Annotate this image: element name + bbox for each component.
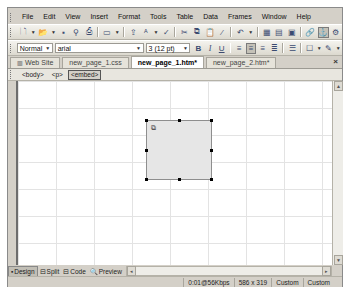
paste-icon[interactable]: 📋 xyxy=(204,27,215,38)
menu-frames[interactable]: Frames xyxy=(223,11,257,23)
hyperlink-icon[interactable]: 🔗 xyxy=(305,27,316,38)
separator xyxy=(230,27,232,37)
bold-button[interactable]: B xyxy=(193,43,203,54)
scroll-up-icon[interactable]: ▲ xyxy=(334,81,343,91)
menu-insert[interactable]: Insert xyxy=(85,11,113,23)
design-icon: ▪ xyxy=(11,267,13,276)
tag-p[interactable]: <p> xyxy=(49,70,66,80)
scroll-left-icon[interactable]: ◂ xyxy=(127,266,136,276)
copy-icon[interactable]: ⧉ xyxy=(192,27,203,38)
resize-handle[interactable] xyxy=(178,119,181,122)
toolbar-grip[interactable] xyxy=(10,44,14,53)
schema-mode[interactable]: Custom xyxy=(271,278,302,287)
new-page-icon[interactable]: 🗋 xyxy=(18,27,29,38)
toolbar-grip[interactable] xyxy=(10,70,14,79)
chevron-down-icon[interactable]: ▼ xyxy=(336,43,341,54)
web-component-icon[interactable]: ⚙ xyxy=(331,27,342,38)
menu-format[interactable]: Format xyxy=(113,11,145,23)
menu-view[interactable]: View xyxy=(60,11,85,23)
font-value: arial xyxy=(58,45,71,52)
embed-object[interactable]: ⧉ xyxy=(146,120,212,180)
resize-handle[interactable] xyxy=(178,178,181,181)
tab-web-site[interactable]: ▥ Web Site xyxy=(10,57,60,68)
resize-handle[interactable] xyxy=(210,178,213,181)
scroll-right-icon[interactable]: ▸ xyxy=(322,266,331,276)
preview-view-button[interactable]: 🔍 Preview xyxy=(88,267,124,276)
undo-icon[interactable]: ↶ xyxy=(235,27,246,38)
menu-tools[interactable]: Tools xyxy=(145,11,171,23)
css-mode[interactable]: Custom xyxy=(303,278,334,287)
anchor-icon[interactable]: ⚓ xyxy=(318,27,329,38)
tag-embed[interactable]: <embed> xyxy=(68,70,101,80)
separator xyxy=(300,43,302,53)
chevron-down-icon[interactable]: ▼ xyxy=(30,27,36,38)
print-icon[interactable]: ⎙ xyxy=(83,27,94,38)
menu-window[interactable]: Window xyxy=(257,11,292,23)
font-select[interactable]: arial ▼ xyxy=(55,43,144,53)
bullet-list-icon[interactable]: ☰ xyxy=(287,43,297,54)
code-label: Code xyxy=(70,267,86,276)
search-icon[interactable]: ⚲ xyxy=(71,27,82,38)
insert-table-icon[interactable]: ▦ xyxy=(262,27,273,38)
resize-handle[interactable] xyxy=(145,178,148,181)
split-label: Split xyxy=(47,267,60,276)
align-center-icon[interactable]: ≡ xyxy=(246,43,256,54)
tab-new-page-1-css[interactable]: new_page_1.css xyxy=(62,57,129,68)
align-right-icon[interactable]: ≡ xyxy=(258,43,268,54)
chevron-down-icon[interactable]: ▼ xyxy=(51,27,57,38)
page-dimensions[interactable]: 586 x 319 xyxy=(234,278,272,287)
scroll-down-icon[interactable]: ▼ xyxy=(334,255,343,265)
plugin-placeholder-icon: ⧉ xyxy=(151,124,156,132)
menu-file[interactable]: File xyxy=(17,11,38,23)
style-select[interactable]: Normal ▼ xyxy=(17,43,53,53)
save-icon[interactable]: ▪ xyxy=(58,27,69,38)
format-painter-icon[interactable]: ⁄ xyxy=(217,27,228,38)
split-view-button[interactable]: ⊟ Split xyxy=(38,267,62,276)
vertical-scrollbar[interactable]: ▲ ▼ xyxy=(332,81,343,265)
design-view-button[interactable]: ▪ Design xyxy=(8,266,38,277)
menu-data[interactable]: Data xyxy=(198,11,223,23)
resize-handle[interactable] xyxy=(210,119,213,122)
toolbar-grip[interactable] xyxy=(10,13,14,22)
horizontal-scrollbar[interactable]: ◂ ▸ xyxy=(126,266,332,276)
chevron-down-icon[interactable]: ▼ xyxy=(114,27,120,38)
chevron-down-icon[interactable]: ▼ xyxy=(182,45,188,52)
border-icon[interactable]: ☐ xyxy=(305,43,315,54)
italic-button[interactable]: I xyxy=(205,43,215,54)
close-icon[interactable]: × xyxy=(333,57,338,66)
chevron-down-icon[interactable]: ▼ xyxy=(136,45,142,52)
separator xyxy=(282,43,284,53)
cut-icon[interactable]: ✂ xyxy=(179,27,190,38)
resize-handle[interactable] xyxy=(145,119,148,122)
standard-toolbar: 🗋 ▼ 📂 ▼ ▪ ⚲ ⎙ ▭ ▼ ⇪ ᴬ ▼ ✓ ✂ ⧉ 📋 ⁄ ↶ ▼ ▦ … xyxy=(8,24,342,40)
insert-frame-icon[interactable]: ▣ xyxy=(287,27,298,38)
font-size-select[interactable]: 3 (12 pt) ▼ xyxy=(146,43,191,53)
open-icon[interactable]: 📂 xyxy=(38,27,49,38)
resize-handle[interactable] xyxy=(145,149,148,152)
preview-icon[interactable]: ▭ xyxy=(102,27,113,38)
code-view-button[interactable]: ⊟ Code xyxy=(61,267,88,276)
chevron-down-icon[interactable]: ▼ xyxy=(45,45,51,52)
align-left-icon[interactable]: ≡ xyxy=(234,43,244,54)
highlight-color-icon[interactable]: ✎ xyxy=(324,43,334,54)
design-label: Design xyxy=(14,267,34,276)
separator xyxy=(300,27,302,37)
tab-label: new_page_2.htm* xyxy=(213,58,269,68)
justify-icon[interactable]: ≣ xyxy=(270,43,280,54)
spelling-icon[interactable]: ᴬ xyxy=(141,27,152,38)
chevron-down-icon[interactable]: ▼ xyxy=(153,27,159,38)
resize-handle[interactable] xyxy=(210,149,213,152)
tag-body[interactable]: <body> xyxy=(19,70,47,80)
chevron-down-icon[interactable]: ▼ xyxy=(317,43,322,54)
menu-help[interactable]: Help xyxy=(292,11,316,23)
publish-icon[interactable]: ⇪ xyxy=(128,27,139,38)
insert-layer-icon[interactable]: ▤ xyxy=(274,27,285,38)
tab-new-page-1-htm[interactable]: new_page_1.htm* xyxy=(131,56,204,68)
menu-edit[interactable]: Edit xyxy=(38,11,60,23)
tab-new-page-2-htm[interactable]: new_page_2.htm* xyxy=(206,57,276,68)
chevron-down-icon[interactable]: ▼ xyxy=(248,27,254,38)
toolbar-grip[interactable] xyxy=(10,28,14,37)
menu-table[interactable]: Table xyxy=(171,11,198,23)
spell-check-icon[interactable]: ✓ xyxy=(161,27,172,38)
underline-button[interactable]: U xyxy=(217,43,227,54)
